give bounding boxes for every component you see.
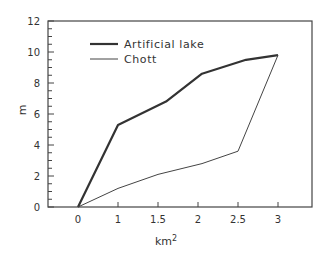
legend-label-artificial-lake: Artificial lake: [124, 38, 204, 51]
x-tick-label: 3: [275, 214, 281, 225]
y-axis-label: m: [16, 105, 29, 116]
x-tick-label: 1: [115, 214, 121, 225]
y-tick-label: 8: [34, 78, 40, 89]
series-line-artificial-lake: [78, 55, 278, 207]
y-tick-label: 2: [34, 171, 40, 182]
x-axis-label-base: km: [155, 235, 172, 248]
y-axis-ticks: [48, 21, 54, 207]
x-tick-label: 2.5: [230, 214, 246, 225]
area-depth-chart: 024681012 011.522.53 Artificial lake Cho…: [0, 0, 325, 261]
y-tick-label: 0: [34, 202, 40, 213]
y-axis-tick-labels: 024681012: [27, 16, 40, 213]
x-tick-label: 2: [195, 214, 201, 225]
x-axis-tick-labels: 011.522.53: [75, 214, 281, 225]
legend-label-chott: Chott: [124, 53, 157, 66]
series-lines: [78, 55, 278, 207]
y-tick-label: 12: [27, 16, 40, 27]
x-axis-label-superscript: 2: [172, 234, 177, 243]
x-tick-label: 0: [75, 214, 81, 225]
series-line-chott: [78, 55, 278, 207]
y-tick-label: 6: [34, 109, 40, 120]
legend: Artificial lake Chott: [90, 38, 204, 66]
x-axis-label: km2: [155, 234, 177, 248]
y-tick-label: 4: [34, 140, 40, 151]
x-axis-ticks: [118, 202, 278, 207]
y-tick-label: 10: [27, 47, 40, 58]
x-tick-label: 1.5: [150, 214, 166, 225]
